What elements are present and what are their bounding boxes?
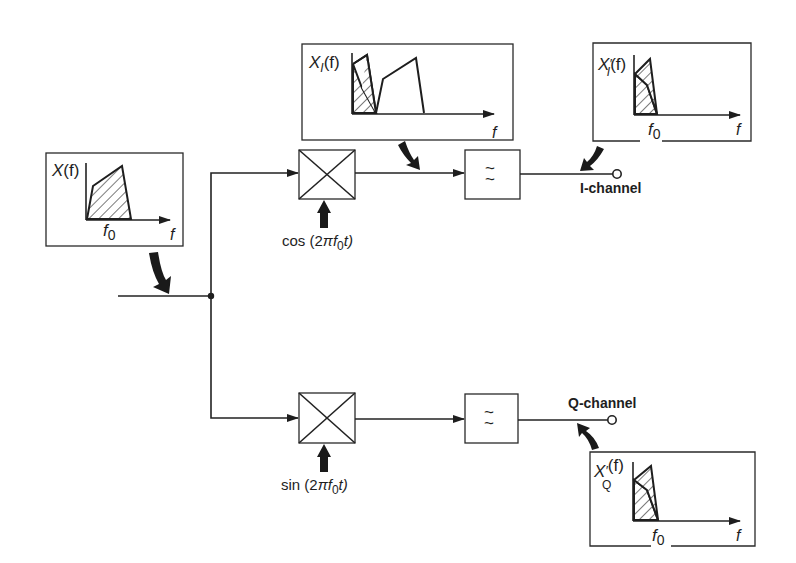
- i-channel-terminal[interactable]: [613, 170, 621, 178]
- lower-mixer: [299, 393, 355, 443]
- curved-pointer-arrow-input: [149, 252, 171, 294]
- sin-oscillator-label: sin (2πf0t): [281, 476, 348, 497]
- q-channel-terminal[interactable]: [608, 416, 616, 424]
- cos-oscillator-label: cos (2πf0t): [282, 232, 353, 253]
- curved-pointer-arrow-q-out: [577, 423, 599, 450]
- q-subscript: Q: [602, 478, 611, 492]
- input-spectrum-panel: X(f) f0 f: [46, 153, 183, 246]
- input-spectrum-label: X(f): [51, 161, 79, 180]
- mixed-spectrum-label: XI(f): [308, 53, 340, 75]
- lower-branch-line: [211, 296, 298, 418]
- curved-pointer-arrow-mixed: [398, 141, 420, 170]
- iq-demodulator-diagram: X(f) f0 f cos (2πf0t) ~ ~ I-channel XI(f…: [0, 0, 796, 563]
- i-channel-label: I-channel: [580, 180, 641, 196]
- lower-lowpass-filter: ~ ~: [465, 394, 518, 443]
- tilde-bottom-icon: ~: [485, 170, 495, 189]
- curved-pointer-arrow-i-out: [580, 146, 604, 171]
- mixed-spectrum-panel: XI(f) f: [302, 44, 513, 141]
- upper-lowpass-filter: ~ ~: [465, 150, 520, 199]
- oscillator-arrow-up: [317, 200, 331, 228]
- oscillator-arrow-up: [317, 444, 331, 472]
- i-channel-spectrum-panel: X′I(f) f0 f: [593, 43, 751, 142]
- q-channel-spectrum-panel: X′(f) Q f0 f: [590, 452, 755, 548]
- q-channel-label: Q-channel: [568, 395, 636, 411]
- tilde-bottom-icon: ~: [484, 414, 494, 433]
- upper-mixer: [299, 150, 355, 199]
